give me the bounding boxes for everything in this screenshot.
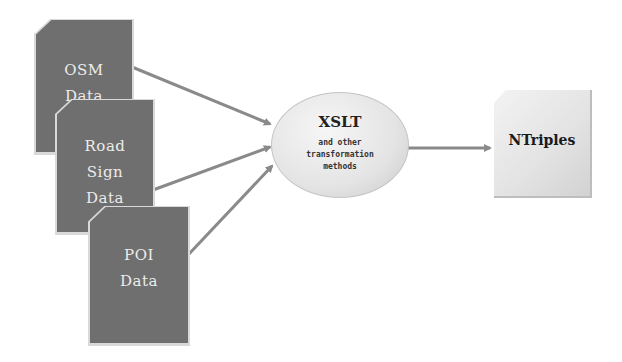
poi-data-label-line1: POI bbox=[90, 243, 188, 267]
diagram-canvas: OSM Data Road Sign Data POI Data XSLT an… bbox=[0, 0, 622, 362]
xslt-title: XSLT bbox=[272, 113, 408, 131]
xslt-subtitle-line1: and other bbox=[272, 137, 408, 149]
osm-data-label-line1: OSM bbox=[36, 58, 132, 82]
road-sign-label-line1: Road bbox=[57, 134, 153, 158]
poi-data-document: POI Data bbox=[90, 207, 188, 343]
poi-data-label-line2: Data bbox=[90, 269, 188, 293]
ntriples-output-document: NTriples bbox=[494, 90, 592, 198]
xslt-subtitle-line3: methods bbox=[272, 161, 408, 173]
xslt-process-node: XSLT and other transformation methods bbox=[271, 92, 409, 198]
arrow-poi-to-xslt bbox=[188, 166, 272, 255]
xslt-subtitle-line2: transformation bbox=[272, 149, 408, 161]
road-sign-label-line2: Sign bbox=[57, 160, 153, 184]
arrow-roadsign-to-xslt bbox=[153, 147, 270, 190]
ntriples-label: NTriples bbox=[494, 132, 590, 148]
